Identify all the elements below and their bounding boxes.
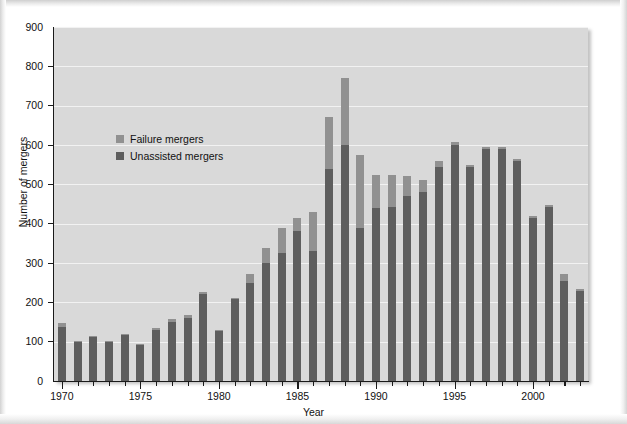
bar-segment-unassisted-1979: [199, 294, 207, 381]
x-tick-1972: [93, 382, 94, 386]
bar-1993[interactable]: [419, 180, 427, 381]
legend-item-unassisted: Unassisted mergers: [116, 150, 223, 162]
bar-1984[interactable]: [278, 228, 286, 381]
x-tick-1984: [282, 382, 283, 386]
x-tick-1990: [376, 382, 377, 389]
bar-1991[interactable]: [388, 175, 396, 381]
y-tick-500: [48, 184, 54, 185]
bar-1972[interactable]: [89, 336, 97, 381]
x-tick-label-1985: 1985: [286, 390, 309, 402]
bar-1986[interactable]: [309, 212, 317, 381]
bar-2001[interactable]: [545, 205, 553, 381]
bar-1980[interactable]: [215, 330, 223, 381]
x-axis-line: [53, 381, 589, 382]
bar-1978[interactable]: [184, 315, 192, 381]
y-tick-600: [48, 145, 54, 146]
bar-segment-unassisted-1991: [388, 207, 396, 381]
x-tick-2002: [564, 382, 565, 386]
bar-segment-unassisted-1977: [168, 322, 176, 381]
bar-2003[interactable]: [576, 289, 584, 381]
scan-edge-top: [0, 0, 627, 7]
x-tick-2001: [549, 382, 550, 386]
bar-segment-unassisted-1978: [184, 318, 192, 381]
bar-segment-failure-1975: [136, 344, 144, 345]
bar-segment-unassisted-1983: [262, 263, 270, 381]
x-tick-1992: [407, 382, 408, 386]
bar-2000[interactable]: [529, 216, 537, 381]
bar-segment-failure-1990: [372, 175, 380, 208]
bar-1979[interactable]: [199, 292, 207, 381]
bar-1988[interactable]: [341, 78, 349, 381]
bar-1992[interactable]: [403, 176, 411, 381]
bar-1994[interactable]: [435, 161, 443, 381]
bar-segment-failure-1971: [74, 341, 82, 342]
bar-1974[interactable]: [121, 334, 129, 381]
x-tick-1975: [140, 382, 141, 389]
bar-1996[interactable]: [466, 165, 474, 381]
bar-segment-failure-1992: [403, 176, 411, 196]
bar-1982[interactable]: [246, 274, 254, 381]
x-tick-1970: [62, 382, 63, 389]
bar-segment-unassisted-1986: [309, 251, 317, 381]
bar-1975[interactable]: [136, 344, 144, 381]
bar-1998[interactable]: [498, 147, 506, 381]
chart-figure: Failure mergers Unassisted mergers 01002…: [0, 0, 627, 424]
bar-1990[interactable]: [372, 175, 380, 382]
bar-segment-unassisted-1999: [513, 161, 521, 381]
bar-segment-failure-1994: [435, 161, 443, 167]
bar-1997[interactable]: [482, 147, 490, 381]
y-tick-100: [48, 341, 54, 342]
x-tick-1999: [517, 382, 518, 386]
bar-segment-failure-1991: [388, 175, 396, 207]
y-tick-300: [48, 263, 54, 264]
bar-segment-failure-1995: [451, 142, 459, 145]
bar-1989[interactable]: [356, 155, 364, 381]
bar-1983[interactable]: [262, 248, 270, 381]
x-tick-1996: [470, 382, 471, 386]
bar-2002[interactable]: [560, 274, 568, 381]
bar-segment-unassisted-1987: [325, 169, 333, 381]
x-axis-title: Year: [0, 406, 627, 418]
bar-segment-failure-1976: [152, 328, 160, 330]
x-tick-label-1970: 1970: [50, 390, 73, 402]
bar-segment-unassisted-1973: [105, 342, 113, 381]
x-tick-1987: [329, 382, 330, 386]
x-tick-1991: [392, 382, 393, 386]
bar-segment-failure-1988: [341, 78, 349, 145]
bar-1976[interactable]: [152, 328, 160, 381]
bar-segment-unassisted-1998: [498, 149, 506, 381]
bar-1987[interactable]: [325, 117, 333, 381]
bar-segment-unassisted-1981: [231, 299, 239, 381]
bar-1995[interactable]: [451, 142, 459, 381]
legend-swatch-failure-icon: [116, 135, 124, 143]
y-tick-700: [48, 105, 54, 106]
bar-segment-unassisted-1982: [246, 283, 254, 381]
bar-segment-unassisted-1988: [341, 145, 349, 381]
chart-legend: Failure mergers Unassisted mergers: [116, 133, 223, 167]
bar-1977[interactable]: [168, 319, 176, 381]
bar-segment-unassisted-1970: [58, 327, 66, 381]
x-tick-1973: [109, 382, 110, 386]
x-tick-1978: [188, 382, 189, 386]
scan-edge-right: [620, 0, 627, 424]
x-tick-1995: [455, 382, 456, 389]
x-tick-label-1980: 1980: [207, 390, 230, 402]
x-tick-1974: [125, 382, 126, 386]
bar-segment-unassisted-1994: [435, 167, 443, 381]
bar-segment-unassisted-2001: [545, 207, 553, 381]
bar-1981[interactable]: [231, 298, 239, 381]
bar-1971[interactable]: [74, 341, 82, 381]
x-tick-1988: [345, 382, 346, 386]
x-tick-1983: [266, 382, 267, 386]
bar-segment-failure-1977: [168, 319, 176, 322]
bar-segment-unassisted-1993: [419, 192, 427, 381]
bar-segment-failure-1973: [105, 341, 113, 342]
bar-1985[interactable]: [293, 218, 301, 381]
bar-1999[interactable]: [513, 159, 521, 381]
bar-segment-failure-1974: [121, 334, 129, 335]
bar-1970[interactable]: [58, 323, 66, 381]
y-tick-label-100: 100: [3, 336, 43, 347]
y-tick-label-200: 200: [3, 297, 43, 308]
bar-1973[interactable]: [105, 341, 113, 381]
bar-segment-failure-2002: [560, 274, 568, 281]
